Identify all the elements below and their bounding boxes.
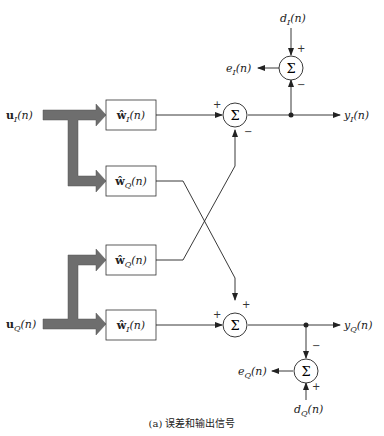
label-eI: eI(n) [226,62,251,77]
label-eQ: eQ(n) [238,365,267,380]
summer-top-output: Σ [223,103,247,127]
sign-plus: + [297,43,305,54]
filter-label: ŵI(n) [116,319,145,334]
junction-dot-yI [289,113,294,118]
label-yQ: yQ(n) [343,319,372,334]
sign-plus: + [213,99,221,110]
filter-label: ŵQ(n) [114,254,147,269]
summer-bottom-error: Σ [294,359,318,383]
sign-plus: + [312,381,320,392]
sign-minus: − [312,340,320,351]
label-uI: uI(n) [6,109,33,124]
sign-minus: − [297,79,305,90]
svg-text:Σ: Σ [230,318,239,333]
summer-bottom-output: Σ [223,313,247,337]
sign-minus: − [244,126,252,137]
svg-text:Σ: Σ [230,108,239,123]
label-dI: dI(n) [280,12,306,27]
svg-text:Σ: Σ [286,61,295,76]
label-uQ: uQ(n) [6,318,36,333]
sign-plus: + [242,299,250,310]
input-bus-uI [43,104,106,192]
label-yI: yI(n) [343,109,369,124]
junction-dot-yQ [304,323,309,328]
sign-plus: + [213,309,221,320]
filter-label: ŵI(n) [116,109,145,124]
figure-caption: (a) 误差和输出信号 [0,415,384,430]
filter-label: ŵQ(n) [114,175,147,190]
svg-text:Σ: Σ [301,364,310,379]
input-bus-uQ [43,249,106,335]
complex-lms-diagram: Σ Σ Σ Σ + − + − + + − + uI(n) uQ(n) ŵI(n… [0,0,384,436]
summer-top-error: Σ [279,56,303,80]
